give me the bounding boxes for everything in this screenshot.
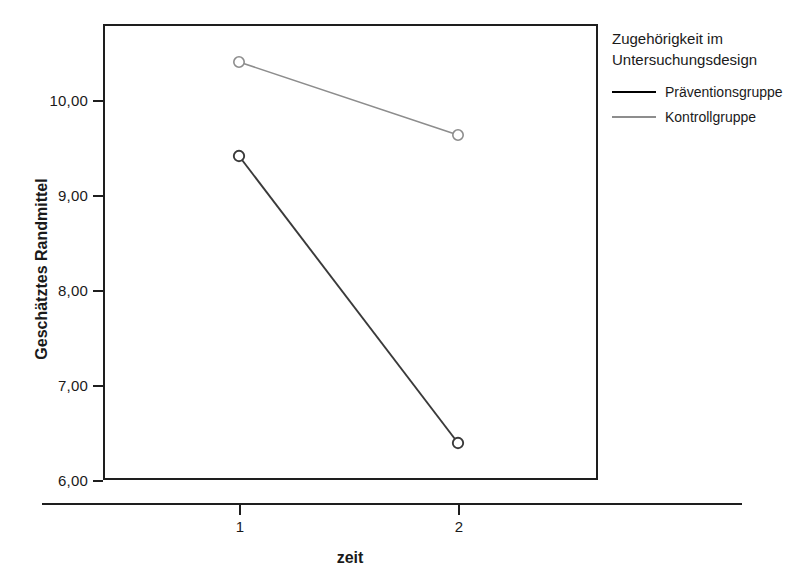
y-tick-label-8: 8,00 — [58, 283, 88, 298]
legend-title: Zugehörigkeit im Untersuchungsdesign — [612, 28, 794, 70]
y-tick-label-7: 7,00 — [58, 378, 88, 393]
legend-title-line-1: Zugehörigkeit im — [612, 28, 794, 49]
legend-items: Präventionsgruppe Kontrollgruppe — [612, 79, 794, 129]
y-tick-mark-6 — [93, 480, 103, 482]
legend-title-line-2: Untersuchungsdesign — [612, 49, 794, 70]
y-tick-label-10: 10,00 — [49, 93, 88, 108]
y-tick-mark-7 — [93, 385, 103, 387]
x-axis-title: zeit — [230, 549, 470, 567]
y-tick-mark-8 — [93, 290, 103, 292]
legend-item-kontrollgruppe[interactable]: Kontrollgruppe — [612, 104, 794, 129]
legend-item-label: Kontrollgruppe — [665, 109, 756, 125]
legend-item-label: Präventionsgruppe — [665, 84, 783, 100]
x-tick-label-2: 2 — [439, 519, 479, 535]
x-axis-line — [42, 503, 742, 505]
legend-line-swatch-icon — [612, 116, 656, 118]
y-tick-mark-9 — [93, 195, 103, 197]
x-tick-label-1: 1 — [220, 519, 260, 535]
y-tick-label-9: 9,00 — [58, 188, 88, 203]
y-tick-label-6: 6,00 — [58, 473, 88, 488]
legend: Zugehörigkeit im Untersuchungsdesign Prä… — [612, 28, 794, 129]
legend-line-swatch-icon — [612, 91, 656, 93]
legend-item-praeventionsgruppe[interactable]: Präventionsgruppe — [612, 79, 794, 104]
y-axis-title: Geschätztes Randmittel — [33, 139, 51, 399]
x-tick-mark-1 — [239, 503, 241, 515]
spss-profile-plot: 10,00 9,00 8,00 7,00 6,00 1 2 Geschätzte… — [0, 0, 794, 585]
plot-area-frame — [103, 24, 598, 480]
y-tick-mark-10 — [93, 100, 103, 102]
x-tick-mark-2 — [458, 503, 460, 515]
